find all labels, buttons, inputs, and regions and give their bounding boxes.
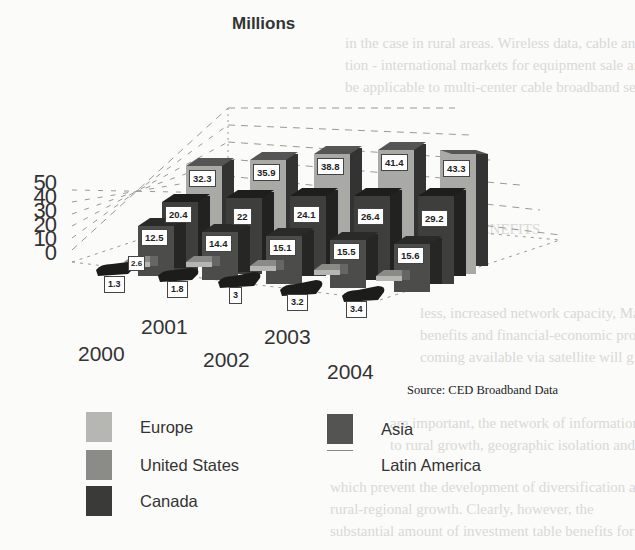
legend-label-asia: Asia xyxy=(381,420,413,439)
value-label-latam-2000: 2.6 xyxy=(128,256,145,271)
value-label-asia-2003: 26.4 xyxy=(357,208,384,225)
value-label-europe-2004: 43.3 xyxy=(443,160,470,177)
value-label-asia-2000: 20.4 xyxy=(165,206,192,223)
background-text-line: substantial amount of investment table b… xyxy=(330,520,634,542)
x-tick-2000: 2000 xyxy=(78,342,125,366)
value-label-us-2001: 14.4 xyxy=(205,235,232,252)
legend-label-europe: Europe xyxy=(140,418,193,437)
value-label-europe-2000: 32.3 xyxy=(189,170,216,187)
background-text-line: are important, the network of informatio… xyxy=(390,412,635,434)
value-label-canada-2003: 3.2 xyxy=(287,294,308,311)
legend-item-asia: Asia xyxy=(327,414,413,444)
value-label-europe-2003: 41.4 xyxy=(381,154,408,171)
legend-item-united-states: United States xyxy=(86,450,239,480)
x-tick-2001: 2001 xyxy=(141,315,188,339)
value-label-us-2003: 15.5 xyxy=(333,243,360,260)
value-label-canada-2001: 1.8 xyxy=(167,281,188,298)
legend-swatch-united-states xyxy=(86,450,112,480)
value-label-us-2004: 15.6 xyxy=(397,247,424,264)
legend-swatch-canada xyxy=(86,486,112,516)
chart-plot-area xyxy=(0,0,635,400)
value-label-europe-2002: 38.8 xyxy=(317,158,344,175)
value-label-canada-2002: 3 xyxy=(229,287,242,304)
chart-source: Source: CED Broadband Data xyxy=(407,383,558,398)
legend-item-canada: Canada xyxy=(86,486,198,516)
value-label-asia-2001: 22 xyxy=(233,208,252,225)
legend-swatch-latin-america xyxy=(327,450,353,481)
value-label-europe-2001: 35.9 xyxy=(253,164,280,181)
background-text-line: rural-regional growth. Clearly, however,… xyxy=(330,498,594,520)
value-label-asia-2002: 24.1 xyxy=(293,206,320,223)
legend-label-canada: Canada xyxy=(140,492,198,511)
legend-label-united-states: United States xyxy=(140,456,239,475)
legend-swatch-europe xyxy=(86,412,112,442)
value-label-asia-2004: 29.2 xyxy=(421,210,448,227)
x-tick-2003: 2003 xyxy=(264,325,311,349)
value-label-canada-2004: 3.4 xyxy=(346,301,367,318)
x-tick-2004: 2004 xyxy=(327,360,374,384)
legend-swatch-asia xyxy=(327,414,353,444)
value-label-canada-2000: 1.3 xyxy=(104,276,125,293)
legend-item-europe: Europe xyxy=(86,412,193,442)
x-tick-2002: 2002 xyxy=(203,348,250,372)
legend-label-latin-america: Latin America xyxy=(381,456,481,475)
value-label-us-2000: 12.5 xyxy=(141,229,168,246)
value-label-us-2002: 15.1 xyxy=(269,239,296,256)
legend-item-latin-america: Latin America xyxy=(327,450,481,481)
